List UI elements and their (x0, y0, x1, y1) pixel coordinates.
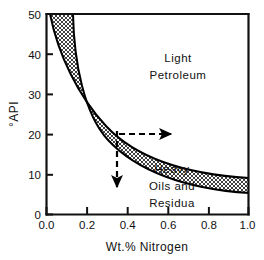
heavy-oils-line3: Residua (149, 197, 195, 209)
x-tick-label-0.0: 0.0 (39, 219, 55, 231)
y-tick-label-30: 30 (28, 89, 41, 101)
chart-figure: 50 40 30 20 10 0 0.0 0.2 0.4 0.6 0.8 1.0… (0, 0, 264, 260)
light-petroleum-line2: Petroleum (150, 69, 207, 81)
y-tick-label-20: 20 (28, 129, 41, 141)
heavy-oils-line1: Heavy (154, 163, 189, 175)
x-tick-label-0.6: 0.6 (160, 219, 176, 231)
light-petroleum-line1: Light (164, 52, 192, 64)
heavy-oils-label: Heavy Oils and Residua (149, 163, 195, 209)
x-tick-label-0.2: 0.2 (79, 219, 95, 231)
x-tick-label-1.0: 1.0 (240, 219, 256, 231)
x-tick-label-0.8: 0.8 (201, 219, 217, 231)
heavy-oils-line2: Oils and (149, 180, 195, 192)
y-axis-title: °API (7, 101, 21, 127)
x-tick-label-0.4: 0.4 (120, 219, 137, 231)
api-vs-nitrogen-chart: 50 40 30 20 10 0 0.0 0.2 0.4 0.6 0.8 1.0… (0, 0, 264, 260)
y-tick-label-50: 50 (28, 9, 41, 21)
y-tick-label-40: 40 (28, 49, 41, 61)
x-axis-title: Wt.% Nitrogen (106, 240, 189, 254)
y-tick-label-10: 10 (28, 169, 41, 181)
